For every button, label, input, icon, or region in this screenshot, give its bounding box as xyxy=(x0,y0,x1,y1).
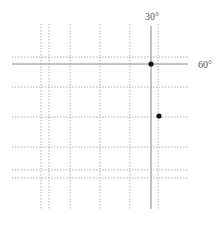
data-point xyxy=(156,113,161,118)
data-points xyxy=(148,61,161,118)
data-point xyxy=(148,61,153,66)
label-60-degrees: 60° xyxy=(198,59,212,70)
grid-diagram: 30° 60° xyxy=(0,0,221,227)
label-30-degrees: 30° xyxy=(145,11,159,22)
